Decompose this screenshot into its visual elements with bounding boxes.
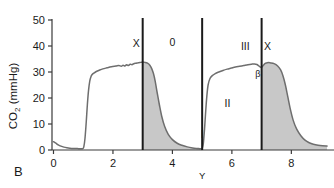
y-tick-label: 40 <box>33 40 45 52</box>
y-tick-label: 50 <box>33 14 45 26</box>
phase-III-label: III <box>241 40 250 52</box>
svg-text:CO2 (mmHg): CO2 (mmHg) <box>7 63 22 130</box>
expiratory-downstroke-fill-2 <box>262 63 327 150</box>
x-marker-label-2: X <box>264 40 271 52</box>
x-tick-label: 4 <box>169 157 175 169</box>
x-marker-label-1: X <box>133 37 140 49</box>
y-tick-label: 20 <box>33 92 45 104</box>
y-axis-title-main: CO <box>7 112 19 129</box>
panel-label-b: B <box>14 164 23 179</box>
expiratory-downstroke-fill-1 <box>143 62 201 150</box>
phase-II-label: II <box>225 97 231 109</box>
x-tick-label: 2 <box>110 157 116 169</box>
phase-I-label: I <box>201 128 204 140</box>
x-axis-marker-y-label: Y <box>199 170 206 181</box>
x-tick-label: 6 <box>229 157 235 169</box>
y-axis-title-unit: (mmHg) <box>7 63 19 108</box>
phase-0-label: 0 <box>169 36 175 48</box>
y-tick-label: 0 <box>39 144 45 156</box>
capnogram-chart-panel: 0102030405002468 0IIIIIIβXX Y CO2 (mmHg)… <box>0 0 334 188</box>
x-tick-label: 0 <box>50 157 56 169</box>
y-tick-label: 10 <box>33 118 45 130</box>
y-axis-title: CO2 (mmHg) <box>7 63 22 130</box>
y-tick-label: 30 <box>33 66 45 78</box>
x-tick-label: 8 <box>288 157 294 169</box>
chart-canvas: 0102030405002468 0IIIIIIβXX Y CO2 (mmHg)… <box>0 0 334 188</box>
beta-angle-label: β <box>255 69 260 79</box>
